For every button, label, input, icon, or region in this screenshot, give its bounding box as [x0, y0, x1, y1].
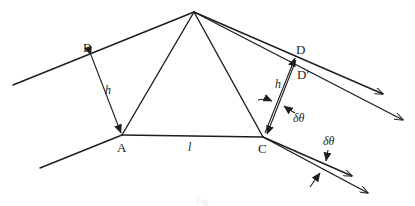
incident-ray-lower: [40, 135, 122, 168]
diffracted-ray-C-lower: [263, 137, 368, 193]
diffracted-ray-D: [194, 12, 383, 94]
side-apex-to-C: [194, 12, 263, 137]
label-point-D-prime: D': [297, 67, 309, 82]
h-dimension-right-D: [265, 58, 295, 133]
label-l: l: [188, 140, 192, 154]
label-h-left: h: [105, 83, 111, 97]
delta-theta-arc-left: [258, 99, 272, 101]
label-point-D: D: [296, 42, 305, 57]
diffracted-ray-D-prime: [194, 12, 403, 120]
label-point-B: B: [83, 40, 92, 55]
delta-theta-arrow-top: [326, 150, 328, 161]
diffraction-geometry-diagram: B A C D D' h h l δθ δθ Fig.: [0, 0, 415, 206]
diagram-canvas: B A C D D' h h l δθ δθ Fig.: [0, 0, 415, 206]
label-point-A: A: [117, 140, 127, 155]
h-dimension-right-D-prime: [267, 60, 296, 134]
figure-caption: Fig.: [196, 196, 210, 206]
label-delta-theta-middle: δθ: [293, 111, 305, 125]
incident-ray-upper: [13, 12, 194, 85]
label-h-right: h: [275, 77, 281, 91]
label-delta-theta-right: δθ: [323, 134, 335, 148]
base-A-to-C: [122, 135, 263, 137]
label-point-C: C: [258, 141, 267, 156]
diffracted-ray-C-upper: [263, 137, 352, 176]
delta-theta-arrow-bottom: [310, 173, 320, 187]
side-apex-to-A: [122, 12, 194, 135]
